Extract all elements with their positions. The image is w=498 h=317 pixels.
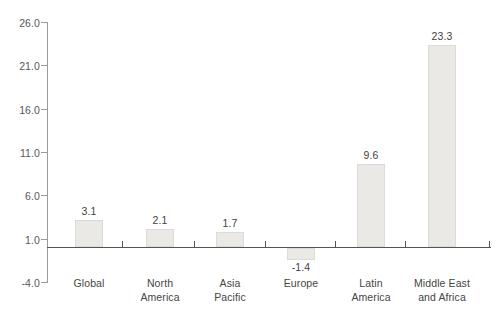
plot-area: 26.0 21.0 16.0 11.0 6.0 1.0 -4.0 3.1 2.1… [0,0,498,317]
x-axis-category-label: Middle East and Africa [396,276,488,304]
x-axis-tick [405,241,406,247]
y-axis-tick [41,195,48,196]
x-axis-tick [265,241,266,247]
y-axis-tick [41,152,48,153]
x-axis-end-tick [489,241,490,247]
y-axis-tick-label: 26.0 [0,18,40,29]
x-axis-tick [194,241,195,247]
y-axis-tick-label: 11.0 [0,148,40,159]
bar-value-label: 1.7 [200,218,260,229]
x-axis-line [47,247,491,248]
y-axis-tick-label: 16.0 [0,105,40,116]
bar-value-label: 3.1 [59,206,119,217]
bar-value-label: -1.4 [271,262,331,273]
bar-chart: 26.0 21.0 16.0 11.0 6.0 1.0 -4.0 3.1 2.1… [0,0,498,317]
bar-north-america [146,229,174,247]
y-axis-tick [41,65,48,66]
y-axis-tick [41,22,48,23]
bar-middle-east-africa [428,45,456,247]
bar-europe [287,248,315,260]
bar-latin-america [357,164,385,247]
y-axis-tick-label: 21.0 [0,61,40,72]
y-axis-tick [41,109,48,110]
x-axis-tick [335,241,336,247]
bar-value-label: 9.6 [341,150,401,161]
bar-value-label: 2.1 [130,215,190,226]
y-axis-tick-label: 6.0 [0,191,40,202]
y-axis-tick [41,239,48,240]
bar-asia-pacific [216,232,244,247]
bar-global [75,220,103,247]
y-axis-tick-label: -4.0 [0,278,40,289]
bar-value-label: 23.3 [412,31,472,42]
y-axis-tick-label: 1.0 [0,235,40,246]
x-axis-tick [122,241,123,247]
